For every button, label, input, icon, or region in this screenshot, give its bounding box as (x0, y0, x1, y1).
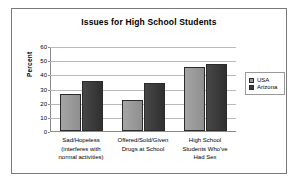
y-tick-label: 40 (40, 72, 47, 78)
legend-item-arizona[interactable]: Arizona (249, 84, 281, 90)
legend-item-label: Arizona (257, 84, 277, 90)
bar-arizona-2 (206, 64, 227, 131)
x-axis-line (50, 131, 236, 132)
y-tick-label: 20 (40, 101, 47, 107)
x-axis-label: High SchoolStudents Who'veHad Sex (168, 136, 242, 162)
legend-swatch-icon (249, 85, 254, 90)
y-tick-label: 0 (44, 129, 47, 135)
chart-title: Issues for High School Students (12, 17, 286, 27)
bar-usa-2 (184, 67, 205, 131)
chart-legend: USAArizona (245, 72, 285, 95)
x-axis-label-line: Students Who've (168, 145, 242, 154)
bar-group (112, 46, 174, 131)
y-tick-mark (48, 132, 50, 133)
plot-area: 0102030405060 (50, 47, 236, 132)
x-axis-label-line: High School (168, 136, 242, 145)
x-axis-label-line: Had Sex (168, 153, 242, 162)
y-tick-label: 10 (40, 115, 47, 121)
bar-group (174, 46, 236, 131)
bar-arizona-0 (82, 81, 103, 131)
y-axis-title: Percent (26, 52, 33, 77)
y-tick-label: 30 (40, 87, 47, 93)
legend-item-label: USA (257, 77, 269, 83)
bar-group (50, 46, 112, 131)
bar-arizona-1 (144, 83, 165, 131)
legend-item-usa[interactable]: USA (249, 77, 281, 83)
legend-swatch-icon (249, 78, 254, 83)
y-tick-label: 60 (40, 44, 47, 50)
bar-usa-1 (122, 100, 143, 131)
bar-usa-0 (60, 94, 81, 131)
chart-frame: Issues for High School Students Percent … (11, 8, 287, 174)
x-axis-label-line: normal activities) (44, 153, 118, 162)
y-tick-label: 50 (40, 58, 47, 64)
